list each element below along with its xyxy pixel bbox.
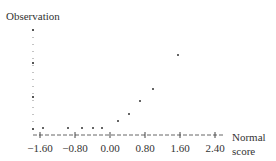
data-point (101, 127, 103, 129)
data-point (117, 120, 119, 122)
data-point (67, 127, 69, 129)
normal-probability-plot: Observation −1.60 −0.80 0.00 0.80 1.60 2… (0, 0, 276, 161)
x-tick-label: 0.00 (100, 142, 120, 154)
data-point (42, 127, 44, 129)
x-axis-label-line2: score (232, 145, 255, 157)
data-points (42, 54, 179, 129)
x-tick-label: 2.40 (205, 142, 225, 154)
x-tick-labels: −1.60 −0.80 0.00 0.80 1.60 2.40 (27, 142, 225, 154)
x-tick-label: −1.60 (27, 142, 53, 154)
x-tick-label: 1.60 (170, 142, 190, 154)
data-point (177, 54, 179, 56)
x-tick-label: 0.80 (135, 142, 155, 154)
x-axis (33, 132, 223, 138)
data-point (139, 100, 141, 102)
x-tick-label: −0.80 (62, 142, 88, 154)
data-point (92, 127, 94, 129)
data-point (128, 113, 130, 115)
x-axis-label-line1: Normal (232, 131, 266, 143)
data-point (152, 88, 154, 90)
data-point (81, 127, 83, 129)
y-axis (32, 29, 34, 135)
y-axis-label: Observation (6, 10, 60, 22)
